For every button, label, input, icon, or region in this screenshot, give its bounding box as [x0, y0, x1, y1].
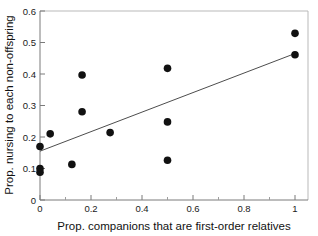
- x-tick-label-1: 0.2: [84, 203, 97, 214]
- y-tick-label-4: 0.4: [23, 69, 36, 80]
- y-axis-tick-labels: 0 0.1 0.2 0.3 0.4 0.5 0.6: [23, 6, 36, 206]
- data-point: [164, 118, 172, 126]
- x-tick-label-0: 0: [37, 203, 42, 214]
- x-tick-label-3: 0.6: [186, 203, 199, 214]
- data-point: [46, 130, 54, 138]
- data-point: [78, 71, 86, 79]
- data-point: [36, 143, 44, 151]
- data-point: [68, 161, 76, 169]
- data-point: [291, 51, 299, 59]
- data-point: [106, 129, 114, 137]
- plot-canvas: 0 0.1 0.2 0.3 0.4 0.5 0.6 0 0.2 0.4: [0, 0, 318, 236]
- data-point: [78, 108, 86, 116]
- plot-frame: [40, 11, 308, 200]
- data-point: [36, 168, 44, 176]
- y-axis-title: Prop. nursing to each non-offspring: [3, 15, 15, 194]
- x-tick-label-5: 1: [292, 203, 297, 214]
- y-tick-label-0: 0: [31, 195, 36, 206]
- y-tick-label-5: 0.5: [23, 37, 36, 48]
- y-tick-label-6: 0.6: [23, 6, 36, 17]
- scatter-plot-figure: 0 0.1 0.2 0.3 0.4 0.5 0.6 0 0.2 0.4: [0, 0, 318, 236]
- x-axis-title: Prop. companions that are first-order re…: [57, 220, 291, 232]
- data-point: [291, 30, 299, 38]
- data-point: [164, 65, 172, 73]
- x-tick-label-4: 0.8: [237, 203, 250, 214]
- y-tick-label-1: 0.1: [23, 163, 36, 174]
- x-axis-ticks: [40, 195, 295, 200]
- data-point: [164, 157, 172, 165]
- y-tick-label-3: 0.3: [23, 100, 36, 111]
- y-tick-label-2: 0.2: [23, 132, 36, 143]
- x-tick-label-2: 0.4: [135, 203, 148, 214]
- x-axis-tick-labels: 0 0.2 0.4 0.6 0.8 1: [37, 203, 297, 214]
